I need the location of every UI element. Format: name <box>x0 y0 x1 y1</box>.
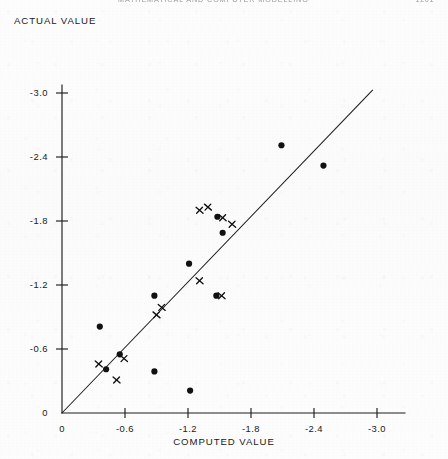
x-tick-label: -0.6 <box>116 423 134 434</box>
y-tick-label: -1.2 <box>30 279 48 290</box>
data-point-cross <box>204 204 211 210</box>
x-tick-label: 0 <box>59 423 65 434</box>
data-point-dot <box>151 368 157 374</box>
y-tick-label: -3.0 <box>30 87 48 98</box>
data-point-cross <box>153 312 160 318</box>
data-point-dot <box>186 261 192 267</box>
data-point-dot <box>220 230 226 236</box>
reference-line <box>62 90 373 413</box>
y-tick-label: 0 <box>42 407 48 418</box>
data-point-dot <box>278 142 284 148</box>
data-point-dot <box>320 162 326 168</box>
data-point-cross <box>113 377 120 383</box>
data-point-dot <box>103 366 109 372</box>
y-tick-label: -2.4 <box>30 151 48 162</box>
scatter-plot: 0-0.6-1.2-1.8-2.4-3.00-0.6-1.2-1.8-2.4-3… <box>0 0 448 459</box>
data-point-cross <box>196 207 203 213</box>
data-point-cross <box>120 356 127 362</box>
x-tick-label: -1.8 <box>242 423 260 434</box>
data-point-cross <box>229 221 236 227</box>
data-point-dot <box>187 388 193 394</box>
x-tick-label: -2.4 <box>305 423 323 434</box>
y-tick-label: -1.8 <box>30 215 48 226</box>
y-tick-label: -0.6 <box>30 343 48 354</box>
plot-svg: 0-0.6-1.2-1.8-2.4-3.00-0.6-1.2-1.8-2.4-3… <box>0 0 448 459</box>
data-point-cross <box>95 361 102 367</box>
x-tick-label: -3.0 <box>368 423 386 434</box>
data-point-cross <box>196 278 203 284</box>
data-points <box>95 142 326 394</box>
identity-reference-line <box>62 90 373 413</box>
data-point-dot <box>151 293 157 299</box>
x-tick-label: -1.2 <box>179 423 197 434</box>
data-point-dot <box>97 324 103 330</box>
